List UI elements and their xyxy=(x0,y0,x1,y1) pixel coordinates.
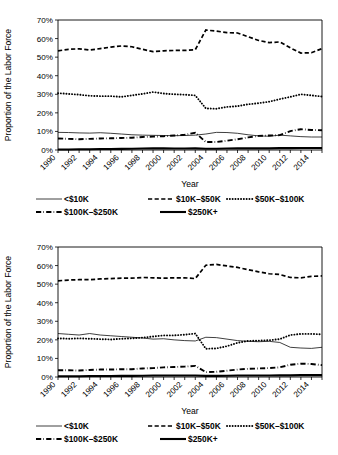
legend-label-dotted: $50K–$100K xyxy=(255,194,304,204)
legend-label-dash-dot: $100K–$250K xyxy=(64,434,118,444)
x-tick-label: 2004 xyxy=(186,380,205,399)
x-tick-label: 1992 xyxy=(59,153,78,172)
x-tick-label: 1992 xyxy=(59,380,78,399)
x-tick-label: 1998 xyxy=(123,153,142,172)
y-tick-label: 20% xyxy=(37,336,53,345)
x-tick-label: 2002 xyxy=(165,380,184,399)
x-axis-title: Year xyxy=(181,179,199,189)
y-axis-title: Proportion of the Labor Force xyxy=(3,29,13,141)
x-tick-label: 2004 xyxy=(186,153,205,172)
x-tick-label: 2000 xyxy=(144,153,163,172)
x-tick-label: 2014 xyxy=(292,153,311,172)
x-axis-title: Year xyxy=(181,406,199,416)
y-tick-label: 30% xyxy=(37,317,53,326)
y-tick-label: 60% xyxy=(37,35,53,44)
x-tick-label: 1990 xyxy=(38,153,57,172)
x-tick-label: 2010 xyxy=(250,153,269,172)
x-tick-label: 2008 xyxy=(228,380,247,399)
axis-lines xyxy=(58,20,322,150)
y-tick-label: 40% xyxy=(37,72,53,81)
x-tick-label: 2012 xyxy=(271,153,290,172)
y-tick-label: 10% xyxy=(37,127,53,136)
y-tick-label: 60% xyxy=(37,262,53,271)
series-line-thick-solid xyxy=(58,375,322,376)
y-tick-label: 50% xyxy=(37,280,53,289)
series-line-dashed xyxy=(58,30,322,53)
x-tick-label: 2006 xyxy=(207,153,226,172)
x-tick-label: 1998 xyxy=(123,380,142,399)
x-tick-label: 2006 xyxy=(207,380,226,399)
axis-lines xyxy=(58,247,322,377)
y-tick-label: 20% xyxy=(37,109,53,118)
legend-label-dotted: $50K–$100K xyxy=(255,421,304,431)
y-tick-label: 70% xyxy=(37,243,53,252)
x-tick-label: 2002 xyxy=(165,153,184,172)
y-axis-title: Proportion of the Labor Force xyxy=(3,256,13,368)
x-tick-label: 2014 xyxy=(292,380,311,399)
y-tick-label: 30% xyxy=(37,90,53,99)
legend-label-thick-solid: $250K+ xyxy=(188,207,218,217)
x-tick-label: 2012 xyxy=(271,380,290,399)
series-line-dash-dot xyxy=(58,364,322,373)
legend-label-dash-dot: $100K–$250K xyxy=(64,207,118,217)
chart-canvas-top: 0%10%20%30%40%50%60%70%19901992199419961… xyxy=(0,0,338,227)
chart-figure-bottom: 0%10%20%30%40%50%60%70%19901992199419961… xyxy=(0,227,338,455)
legend-label-dashed: $10K–$50K xyxy=(176,194,221,204)
series-line-dashed xyxy=(58,264,322,280)
x-tick-label: 1990 xyxy=(38,380,57,399)
x-tick-label: 1996 xyxy=(102,380,121,399)
x-tick-label: 1994 xyxy=(81,380,100,399)
chart-canvas-bottom: 0%10%20%30%40%50%60%70%19901992199419961… xyxy=(0,227,338,455)
x-tick-label: 2010 xyxy=(250,380,269,399)
series-line-thick-solid xyxy=(58,148,322,149)
y-tick-label: 10% xyxy=(37,354,53,363)
x-tick-label: 1994 xyxy=(81,153,100,172)
legend-label-dashed: $10K–$50K xyxy=(176,421,221,431)
legend-label-thin-solid: <$10K xyxy=(64,421,89,431)
chart-figure-top: 0%10%20%30%40%50%60%70%19901992199419961… xyxy=(0,0,338,227)
x-tick-label: 1996 xyxy=(102,153,121,172)
y-tick-label: 70% xyxy=(37,16,53,25)
legend-label-thin-solid: <$10K xyxy=(64,194,89,204)
y-tick-label: 50% xyxy=(37,53,53,62)
y-tick-label: 40% xyxy=(37,299,53,308)
series-line-thin-solid xyxy=(58,334,322,349)
series-line-dotted xyxy=(58,92,322,109)
x-tick-label: 2000 xyxy=(144,380,163,399)
legend-label-thick-solid: $250K+ xyxy=(188,434,218,444)
x-tick-label: 2008 xyxy=(228,153,247,172)
